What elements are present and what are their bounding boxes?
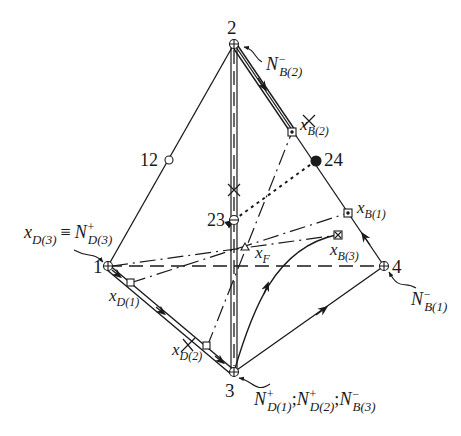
point-12-label: 12 (140, 150, 158, 170)
edge-2-4 (234, 44, 384, 266)
line-xd2-xb2 (207, 132, 292, 347)
label-nb2: N−B(2) (265, 52, 302, 79)
tetrahedron-diagram: 2 1 3 4 12 23 24 N−B(2) xB(2) xB(1) xB(3… (0, 0, 461, 436)
vertex-1-label: 1 (93, 256, 103, 277)
vertex-2-label: 2 (227, 17, 237, 38)
label-xb3: xB(3) (329, 240, 359, 263)
cross-marks (181, 115, 315, 352)
vertex-4-label: 4 (392, 256, 402, 277)
vertex-1-marker[interactable] (104, 262, 113, 271)
vertex-3-marker[interactable] (230, 368, 239, 377)
label-xd1: xD(1) (108, 286, 139, 309)
edge-1-2 (108, 44, 234, 266)
xb1-marker[interactable] (344, 209, 352, 217)
xd1-marker[interactable] (127, 279, 134, 286)
point-24-label: 24 (324, 149, 344, 170)
point-23-label: 23 (207, 210, 225, 230)
point-24-marker[interactable] (311, 156, 321, 166)
arrow-3-to-4 (316, 309, 324, 315)
edge-3-4 (234, 266, 384, 372)
tetrahedron-edges (106, 43, 384, 375)
label-xf: xF (254, 243, 271, 266)
vertex-4-marker[interactable] (380, 262, 389, 271)
diagram-svg: 2 1 3 4 12 23 24 N−B(2) xB(2) xB(1) xB(3… (0, 0, 461, 436)
label-bottom-nodes: N+D(1);N+D(2);N−B(3) (253, 387, 376, 414)
vertex-markers (104, 40, 389, 377)
vertex-2-marker[interactable] (230, 40, 239, 49)
label-xb1: xB(1) (356, 198, 386, 221)
label-xb2: xB(2) (299, 115, 329, 138)
label-nb1: N−B(1) (410, 287, 447, 314)
vertex-3-label: 3 (225, 380, 235, 401)
point-23-marker[interactable] (230, 216, 239, 225)
point-12-marker[interactable] (165, 156, 173, 164)
line-1-xb3 (112, 235, 338, 266)
curve-3-to-xb3 (234, 235, 336, 372)
xb3-marker[interactable] (334, 231, 342, 239)
xd2-marker[interactable] (203, 342, 210, 349)
dotted-line-23-24 (234, 162, 314, 220)
xb2-marker[interactable] (288, 128, 296, 136)
edge-arrows (112, 78, 370, 361)
edge-1-3-b (106, 269, 232, 375)
label-xd3-equiv-nd3: xD(3)≡N+D(3) (23, 220, 112, 247)
line-xd1-xb1 (130, 213, 348, 283)
arrow-4-to-xb1 (364, 236, 370, 245)
